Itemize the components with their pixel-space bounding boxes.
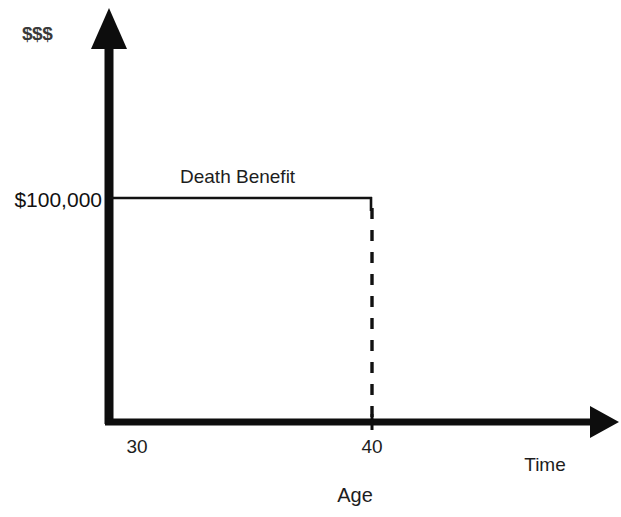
death-benefit-chart: $$$ $100,000 Death Benefit 30 40 Time Ag… [0,0,621,517]
y-axis-arrowhead-icon [91,8,127,49]
x-axis-title: Age [310,485,400,505]
chart-plot-area [0,0,621,517]
x-axis-arrowhead-icon [590,406,619,438]
x-axis-tick-label-30: 30 [112,437,162,456]
death-benefit-series-label: Death Benefit [180,167,295,186]
x-axis-tick-label-40: 40 [347,437,397,456]
y-axis-tick-label-100000: $100,000 [0,189,102,210]
x-axis-name-label: Time [505,455,585,474]
y-axis-label: $$$ [22,24,52,43]
